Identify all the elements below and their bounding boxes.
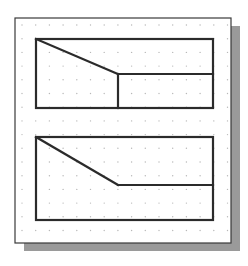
grid-dot [186,175,187,176]
grid-dot [186,148,187,149]
grid-dot [104,189,105,190]
grid-dot [172,175,173,176]
grid-dot [62,79,63,80]
grid-dot [104,202,105,203]
grid-dot [117,148,118,149]
grid-dot [104,93,105,94]
grid-dot [90,202,91,203]
grid-dot [104,230,105,231]
grid-dot [227,107,228,108]
grid-dot [227,93,228,94]
grid-dot [186,52,187,53]
grid-dot [172,93,173,94]
grid-dot [131,120,132,121]
grid-dot [21,134,22,135]
grid-dot [158,120,159,121]
grid-dot [21,175,22,176]
grid-dot [186,120,187,121]
grid-dot [227,189,228,190]
grid-dot [104,79,105,80]
grid-dot [62,189,63,190]
grid-dot [21,216,22,217]
grid-dot [158,65,159,66]
grid-dot [158,24,159,25]
sketch-frame [15,18,231,243]
grid-dot [131,230,132,231]
grid-dot [21,189,22,190]
grid-dot [158,134,159,135]
grid-dot [76,230,77,231]
grid-dot [76,52,77,53]
grid-dot [227,175,228,176]
grid-dot [145,65,146,66]
grid-dot [158,202,159,203]
grid-dot [76,148,77,149]
grid-dot [49,79,50,80]
grid-dot [62,230,63,231]
grid-dot [62,148,63,149]
grid-dot [158,216,159,217]
grid-dot [199,161,200,162]
grid-dot [145,175,146,176]
grid-dot [186,65,187,66]
grid-dot [49,161,50,162]
grid-dot [117,24,118,25]
grid-dot [172,161,173,162]
grid-dot [21,202,22,203]
grid-dot [49,175,50,176]
grid-dot [90,52,91,53]
grid-dot [172,216,173,217]
grid-dot [199,148,200,149]
grid-dot [35,230,36,231]
grid-dot [49,202,50,203]
grid-dot [172,65,173,66]
grid-dot [117,134,118,135]
grid-dot [76,202,77,203]
grid-dot [76,134,77,135]
grid-dot [62,24,63,25]
grid-dot [158,175,159,176]
grid-dot [131,148,132,149]
grid-dot [145,148,146,149]
grid-dot [145,189,146,190]
grid-dot [199,216,200,217]
grid-dot [117,161,118,162]
grid-dot [21,161,22,162]
grid-dot [186,189,187,190]
grid-dot [49,120,50,121]
grid-dot [117,120,118,121]
grid-dot [172,24,173,25]
grid-dot [62,134,63,135]
grid-dot [227,216,228,217]
grid-dot [186,79,187,80]
grid-dot [21,65,22,66]
grid-dot [49,230,50,231]
grid-dot [104,148,105,149]
grid-dot [199,202,200,203]
grid-dot [186,24,187,25]
grid-dot [199,230,200,231]
grid-dot [90,134,91,135]
grid-dot [49,189,50,190]
grid-dot [199,120,200,121]
grid-dot [172,202,173,203]
grid-dot [90,148,91,149]
grid-dot [90,93,91,94]
grid-dot [104,216,105,217]
grid-dot [199,93,200,94]
grid-dot [49,216,50,217]
grid-dot [90,175,91,176]
grid-dot [186,161,187,162]
grid-dot [117,175,118,176]
grid-dot [145,202,146,203]
grid-dot [227,148,228,149]
grid-dot [35,24,36,25]
grid-dot [49,52,50,53]
grid-dot [49,65,50,66]
grid-dot [104,161,105,162]
grid-dot [131,161,132,162]
grid-dot [117,189,118,190]
grid-dot [199,134,200,135]
grid-dot [199,65,200,66]
grid-dot [62,161,63,162]
